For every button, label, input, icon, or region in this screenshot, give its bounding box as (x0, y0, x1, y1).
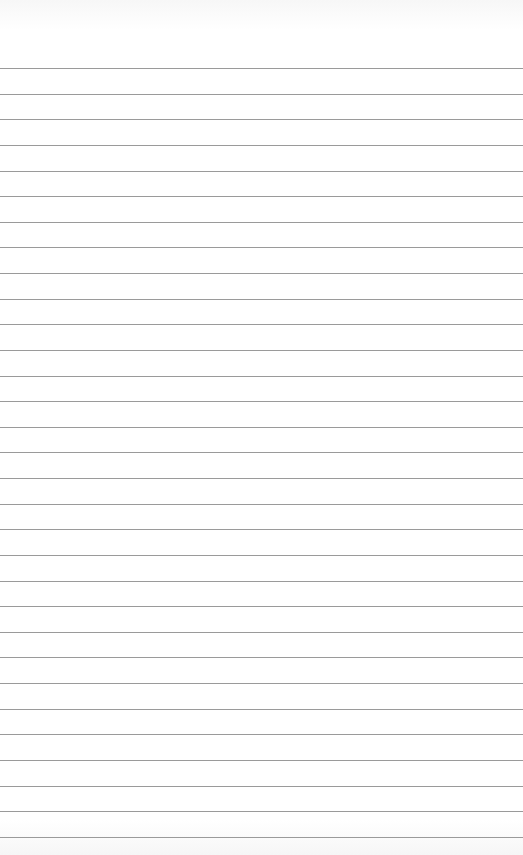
ruled-line (0, 734, 523, 735)
ruled-line (0, 452, 523, 453)
ruled-line (0, 324, 523, 325)
ruled-line (0, 555, 523, 556)
ruled-line (0, 68, 523, 69)
ruled-line (0, 94, 523, 95)
ruled-line (0, 811, 523, 812)
ruled-line (0, 581, 523, 582)
ruled-line (0, 247, 523, 248)
ruled-line (0, 273, 523, 274)
ruled-line (0, 427, 523, 428)
ruled-line (0, 683, 523, 684)
ruled-line (0, 401, 523, 402)
ruled-line (0, 119, 523, 120)
ruled-line (0, 504, 523, 505)
ruled-line (0, 760, 523, 761)
ruled-line (0, 709, 523, 710)
ruled-line (0, 222, 523, 223)
ruled-line (0, 299, 523, 300)
ruled-line (0, 786, 523, 787)
ruled-line (0, 529, 523, 530)
ruled-line (0, 350, 523, 351)
ruled-line (0, 478, 523, 479)
ruled-line (0, 196, 523, 197)
ruled-line (0, 837, 523, 838)
ruled-line (0, 657, 523, 658)
ruled-line (0, 606, 523, 607)
lined-paper-page (0, 0, 523, 855)
ruled-line (0, 145, 523, 146)
ruled-line (0, 171, 523, 172)
ruled-line (0, 632, 523, 633)
ruled-line (0, 376, 523, 377)
